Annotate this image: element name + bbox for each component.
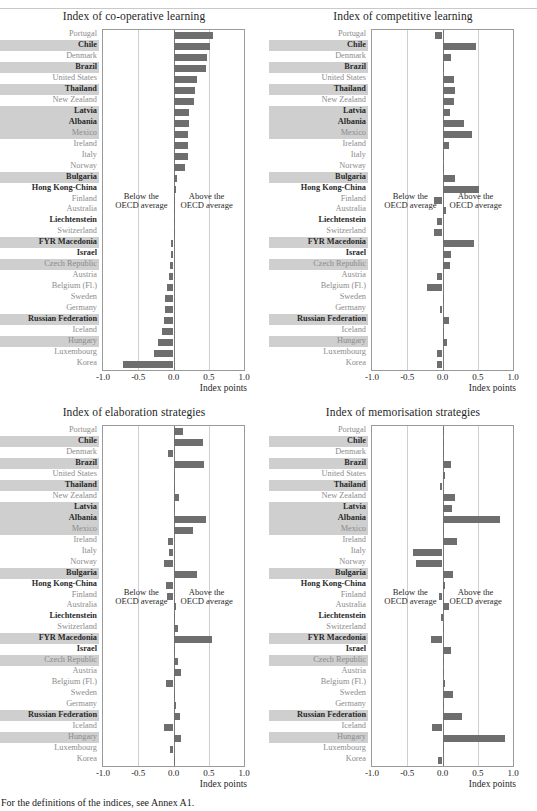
country-label: Portugal [0, 425, 99, 436]
x-tick-label: 0.0 [437, 372, 448, 382]
bar [443, 142, 449, 149]
country-label: Hong Kong-China [0, 183, 99, 194]
note-above-average: Above theOECD average [181, 588, 233, 607]
note-below-line2: OECD average [115, 596, 167, 606]
country-label: United States [269, 469, 368, 480]
x-tick-label: -1.0 [365, 372, 379, 382]
country-label: Australia [269, 204, 368, 215]
note-below-line1: Below the [393, 587, 428, 597]
country-label: Luxembourg [0, 347, 99, 358]
country-label: Liechtenstein [269, 215, 368, 226]
country-label: Czech Republic [269, 655, 368, 666]
note-below-average: Below theOECD average [115, 192, 167, 211]
bar [443, 571, 454, 578]
bar [437, 361, 443, 368]
country-label: New Zealand [0, 491, 99, 502]
country-label: Italy [0, 150, 99, 161]
country-label: Italy [269, 150, 368, 161]
country-label: Czech Republic [269, 259, 368, 270]
bar [174, 109, 190, 116]
x-tick-label: 0.5 [472, 768, 483, 778]
country-label: Norway [269, 557, 368, 568]
country-label: Portugal [269, 29, 368, 40]
bar [174, 636, 213, 643]
bar [443, 251, 451, 258]
note-above-average: Above theOECD average [450, 588, 502, 607]
bar [154, 350, 174, 357]
bar [443, 746, 445, 753]
country-label: Austria [0, 666, 99, 677]
country-label-column: PortugalChileDenmarkBrazilUnited StatesT… [0, 425, 101, 765]
panel-title: Index of co-operative learning [0, 10, 268, 22]
x-tick-label: -0.5 [400, 768, 414, 778]
note-below-line2: OECD average [115, 200, 167, 210]
country-label: Mexico [0, 524, 99, 535]
bar [174, 494, 180, 501]
country-label: Italy [269, 546, 368, 557]
note-above-average: Above theOECD average [450, 192, 502, 211]
country-label: Liechtenstein [0, 611, 99, 622]
x-tick-label: 1.0 [238, 372, 249, 382]
bar [434, 197, 442, 204]
bar [170, 746, 174, 753]
bar [174, 483, 176, 490]
bar [165, 295, 173, 302]
country-label: Albania [0, 513, 99, 524]
x-tick-label: -1.0 [96, 768, 110, 778]
chart-area: PortugalChileDenmarkBrazilUnited StatesT… [269, 425, 537, 765]
note-below-line2: OECD average [384, 596, 436, 606]
note-above-line1: Above the [458, 587, 494, 597]
bar [443, 109, 451, 116]
country-label: Thailand [0, 84, 99, 95]
bar [416, 560, 442, 567]
country-label: Ireland [0, 139, 99, 150]
country-label: FYR Macedonia [0, 237, 99, 248]
country-label: Luxembourg [269, 347, 368, 358]
country-label: Brazil [0, 458, 99, 469]
bar [174, 461, 204, 468]
note-above-line2: OECD average [450, 200, 502, 210]
bar [438, 757, 443, 764]
bar [432, 724, 443, 731]
country-label: New Zealand [0, 95, 99, 106]
plot-frame: Below theOECD average Above theOECD aver… [371, 29, 514, 371]
bar [431, 636, 443, 643]
x-tick-label: -1.0 [96, 372, 110, 382]
x-tick-label: 1.0 [507, 768, 518, 778]
bar [427, 284, 443, 291]
country-label: Belgium (Fl.) [269, 677, 368, 688]
bar [174, 603, 177, 610]
note-above-line1: Above the [189, 191, 225, 201]
country-label: Czech Republic [0, 259, 99, 270]
bar [174, 164, 185, 171]
country-label: Russian Federation [269, 314, 368, 325]
country-label: New Zealand [269, 491, 368, 502]
country-label: Germany [0, 699, 99, 710]
bar [174, 131, 189, 138]
country-label: Switzerland [269, 622, 368, 633]
top-divider [0, 8, 537, 9]
bar [443, 76, 454, 83]
country-label: Switzerland [269, 226, 368, 237]
chart-area: PortugalChileDenmarkBrazilUnited StatesT… [269, 29, 537, 369]
bar [162, 328, 174, 335]
bar [174, 472, 176, 479]
bar [443, 691, 454, 698]
country-label: Russian Federation [269, 710, 368, 721]
panel-title: Index of memorisation strategies [269, 406, 537, 418]
country-label: United States [269, 73, 368, 84]
x-axis-title: Index points [200, 779, 247, 789]
country-label: Hong Kong-China [269, 579, 368, 590]
bar [174, 713, 180, 720]
country-label: Finland [269, 590, 368, 601]
bar [167, 593, 173, 600]
bar [167, 284, 173, 291]
country-label: Iceland [269, 325, 368, 336]
country-label: Hong Kong-China [0, 579, 99, 590]
bar [441, 614, 443, 621]
country-label: Hungary [269, 336, 368, 347]
chart-area: PortugalChileDenmarkBrazilUnited StatesT… [0, 425, 268, 765]
country-label: Chile [0, 436, 99, 447]
x-tick-label: 1.0 [238, 768, 249, 778]
bar [443, 516, 501, 523]
